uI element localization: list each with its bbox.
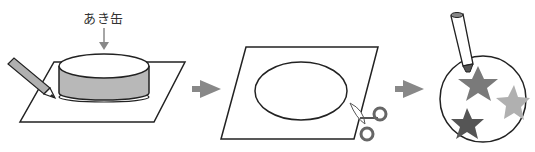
can-label: あき缶 (83, 8, 124, 27)
marker-icon (451, 13, 473, 73)
step-1-trace (8, 28, 185, 122)
next-arrow-icon (395, 80, 424, 98)
step-2-cut (221, 47, 386, 140)
next-arrow-icon (192, 80, 221, 98)
step-3-decorate (440, 13, 530, 143)
can-icon (59, 54, 149, 102)
paper-sheet (221, 47, 378, 139)
craft-steps-diagram (0, 0, 535, 152)
down-arrow-icon (99, 42, 109, 50)
